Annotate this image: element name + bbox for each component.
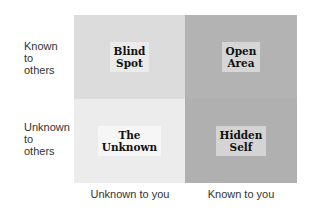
column-label-known-to-you: Known to you <box>185 188 297 200</box>
row-label-line: Known <box>24 40 58 52</box>
row-label-line: others <box>24 145 70 157</box>
quadrant-open-area: Open Area <box>185 15 297 99</box>
quadrant-label: Hidden Self <box>216 126 267 156</box>
quadrant-label: Open Area <box>222 42 261 72</box>
quadrant-label-line: The <box>102 129 157 141</box>
quadrant-label-line: Blind <box>114 45 146 57</box>
row-label-line: to <box>24 52 58 64</box>
quadrant-label: Blind Spot <box>110 42 150 72</box>
quadrant-label: The Unknown <box>98 126 161 156</box>
row-label-line: others <box>24 64 58 76</box>
quadrant-the-unknown: The Unknown <box>74 99 185 183</box>
row-label-line: Unknown <box>24 121 70 133</box>
quadrant-label-line: Unknown <box>102 141 157 153</box>
row-label-line: to <box>24 133 70 145</box>
quadrant-label-line: Self <box>220 141 263 153</box>
row-label-unknown-to-others: Unknown to others <box>24 121 70 157</box>
quadrant-label-line: Open <box>226 45 257 57</box>
quadrant-hidden-self: Hidden Self <box>185 99 297 183</box>
quadrant-blind-spot: Blind Spot <box>74 15 185 99</box>
quadrant-label-line: Hidden <box>220 129 263 141</box>
quadrant-label-line: Area <box>226 57 257 69</box>
column-label-unknown-to-you: Unknown to you <box>74 188 186 200</box>
quadrant-label-line: Spot <box>114 57 146 69</box>
row-label-known-to-others: Known to others <box>24 40 58 76</box>
